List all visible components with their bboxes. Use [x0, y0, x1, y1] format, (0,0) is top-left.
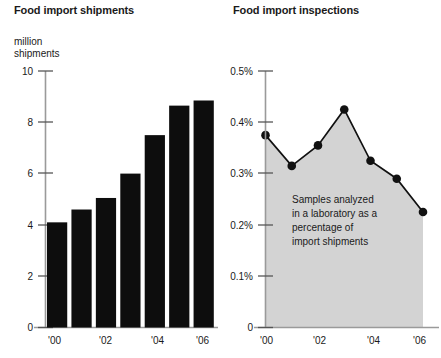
- data-point-03: [340, 105, 349, 114]
- data-point-05: [392, 174, 401, 183]
- y-tick-label: 6: [27, 168, 33, 179]
- annotation-line: import shipments: [292, 236, 368, 247]
- y-tick-label: 0.3%: [230, 168, 253, 179]
- x-tick-label: '06: [413, 335, 426, 346]
- annotation-line: percentage of: [292, 222, 353, 233]
- y-tick-label: 0: [247, 322, 253, 333]
- y-tick-label: 0.4%: [230, 117, 253, 128]
- bar-05: [169, 106, 189, 328]
- bar-02: [96, 198, 116, 328]
- y-tick-label: 0.5%: [230, 66, 253, 77]
- chart-panel-inspections: Food import inspections 0.5% 0.4% 0.3% 0…: [220, 0, 441, 358]
- x-tick-label: '00: [260, 335, 273, 346]
- y-tick-label: 10: [22, 66, 34, 77]
- bar-series: [47, 101, 214, 328]
- x-tick-label: '02: [313, 335, 326, 346]
- data-point-06: [419, 208, 428, 217]
- bar-00: [47, 222, 67, 327]
- x-tick-label: '04: [151, 335, 164, 346]
- chart-panel-shipments: Food import shipments million shipments …: [0, 0, 220, 358]
- area-chart-svg: 0.5% 0.4% 0.3% 0.2% 0.1% 0 Samples analy…: [220, 0, 441, 358]
- annotation-line: Samples analyzed: [292, 194, 374, 205]
- y-tick-label: 4: [27, 220, 33, 231]
- data-point-01: [287, 162, 296, 171]
- x-tick-label: '06: [196, 335, 209, 346]
- bar-chart-svg: 10 8 6 4 2 0 '00 '02 '04 '06: [0, 0, 220, 358]
- data-point-02: [314, 141, 323, 150]
- y-tick-label: 2: [27, 271, 33, 282]
- y-tick-label: 0.2%: [230, 220, 253, 231]
- x-tick-label: '00: [48, 335, 61, 346]
- bar-06: [194, 101, 214, 328]
- x-tick-label: '02: [99, 335, 112, 346]
- x-tick-label: '04: [367, 335, 380, 346]
- data-point-04: [366, 156, 375, 165]
- bar-01: [71, 210, 91, 328]
- y-tick-label: 8: [27, 117, 33, 128]
- bar-03: [120, 174, 140, 328]
- y-tick-label: 0.1%: [230, 271, 253, 282]
- y-tick-label: 0: [27, 322, 33, 333]
- bar-04: [145, 135, 165, 327]
- annotation-line: in a laboratory as a: [292, 208, 377, 219]
